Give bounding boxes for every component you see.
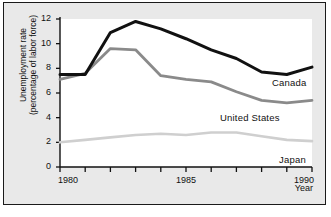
- y-tick-label: 0: [31, 162, 51, 171]
- y-tick-label: 4: [31, 113, 51, 122]
- series-label-united-states: United States: [220, 112, 280, 123]
- x-tick-label: 1985: [176, 176, 196, 185]
- y-tick-label: 2: [31, 137, 51, 146]
- y-tick-label: 6: [31, 88, 51, 97]
- figure-caption: [4, 208, 304, 215]
- x-tick-label: 1980: [58, 176, 78, 185]
- series-line-japan: [60, 132, 312, 142]
- tick-marks: [56, 19, 312, 172]
- series-label-canada: Canada: [272, 77, 306, 88]
- series-line-canada: [60, 21, 312, 74]
- y-tick-label: 12: [31, 14, 51, 23]
- y-tick-label: 8: [31, 63, 51, 72]
- y-tick-label: 10: [31, 39, 51, 48]
- chart-figure: Unemployment rate (percentage of labor f…: [0, 0, 331, 217]
- y-axis-title-line1: Unemployment rate: [18, 0, 28, 135]
- series-label-japan: Japan: [279, 154, 306, 165]
- chart-canvas: [4, 3, 327, 206]
- chart-panel: Unemployment rate (percentage of labor f…: [3, 2, 326, 205]
- series-line-united-states: [60, 49, 312, 103]
- x-axis-title: Year: [295, 183, 313, 193]
